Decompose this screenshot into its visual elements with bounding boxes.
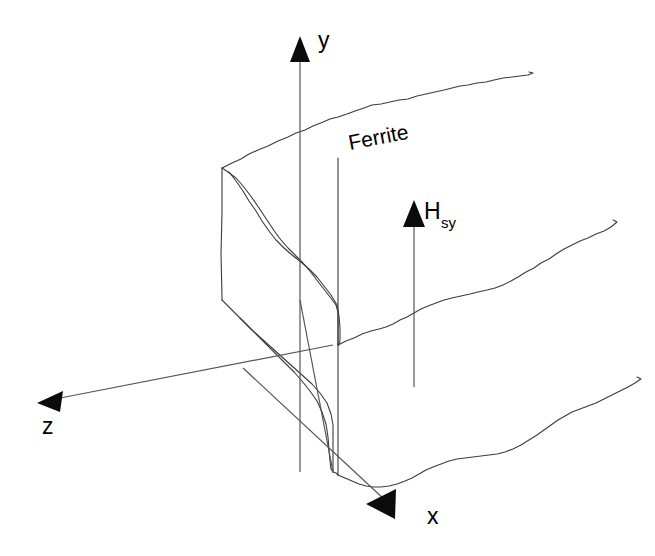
x-axis-label: x xyxy=(427,503,439,529)
z-axis-label: z xyxy=(42,413,54,439)
figure-root: y x z Ferrite H sy xyxy=(0,0,655,556)
ferrite-slab-diagram: y x z Ferrite H sy xyxy=(0,0,655,556)
h-sy-label-symbol: H xyxy=(424,198,441,224)
h-sy-label-subscript: sy xyxy=(441,214,457,231)
figure-background xyxy=(0,0,655,556)
y-axis-label: y xyxy=(318,27,330,53)
